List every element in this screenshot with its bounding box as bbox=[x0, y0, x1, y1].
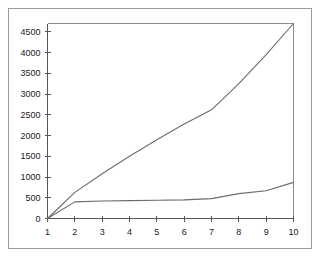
x-tick-label: 6 bbox=[182, 227, 187, 237]
x-tick-label: 1 bbox=[45, 227, 50, 237]
x-tick-label: 2 bbox=[72, 227, 77, 237]
x-tick-label: 5 bbox=[154, 227, 159, 237]
x-tick-label: 4 bbox=[127, 227, 132, 237]
y-tick-label: 2500 bbox=[20, 110, 40, 120]
y-tick-label: 500 bbox=[25, 193, 40, 203]
y-tick-label: 2000 bbox=[20, 131, 40, 141]
y-tick-label: 3500 bbox=[20, 68, 40, 78]
x-tick-label: 9 bbox=[264, 227, 269, 237]
x-tick-label: 3 bbox=[100, 227, 105, 237]
y-tick-label: 0 bbox=[35, 214, 40, 224]
x-tick-label: 10 bbox=[288, 227, 298, 237]
line-chart: 0500100015002000250030003500400045001234… bbox=[0, 0, 323, 263]
chart-figure: 0500100015002000250030003500400045001234… bbox=[0, 0, 323, 263]
x-tick-label: 8 bbox=[236, 227, 241, 237]
y-tick-label: 4000 bbox=[20, 48, 40, 58]
series-lower-curve bbox=[48, 182, 294, 218]
y-tick-label: 3000 bbox=[20, 89, 40, 99]
y-tick-label: 1500 bbox=[20, 151, 40, 161]
y-tick-label: 4500 bbox=[20, 27, 40, 37]
series-upper-curve bbox=[48, 24, 294, 219]
x-tick-label: 7 bbox=[209, 227, 214, 237]
y-tick-label: 1000 bbox=[20, 172, 40, 182]
